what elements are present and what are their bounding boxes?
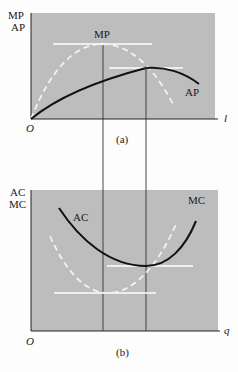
panel-b-x-label: q [224,324,230,336]
cost-product-diagram: MP AP MP AP O l (a) AC MC AC MC O q (b) [0,0,238,372]
ap-curve-label: AP [185,86,199,98]
panel-a-origin-label: O [26,122,34,134]
panel-a-x-label: l [224,112,227,124]
panel-a-background [31,13,215,119]
mp-curve-label: MP [94,28,110,40]
panel-b-caption: (b) [116,346,129,359]
panel-a-y-label-ap: AP [11,21,25,33]
panel-a-caption: (a) [116,133,129,146]
panel-b-y-label-ac: AC [10,186,25,198]
panel-b-background [31,190,218,331]
panel-a-y-label-mp: MP [8,9,24,21]
panel-b-y-label-mc: MC [9,198,26,210]
panel-b-origin-label: O [26,335,34,347]
mp-max-point [101,43,103,45]
ac-curve-label: AC [73,211,88,223]
ap-max-point [145,67,148,70]
mc-curve-label: MC [188,194,205,206]
